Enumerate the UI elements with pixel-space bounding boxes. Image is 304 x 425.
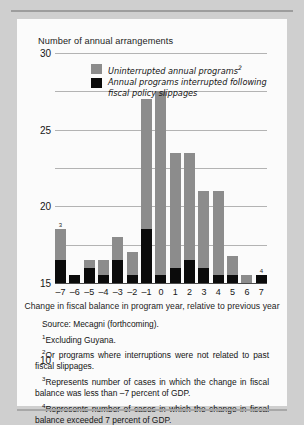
x-tick-label-0: 0: [155, 287, 166, 297]
x-tick-label-2: 2: [184, 287, 195, 297]
figure-page: Number of annual arrangements 0510152025…: [0, 0, 304, 425]
x-tick-label-3: 3: [198, 287, 209, 297]
bar-segment-interrupted--7: [55, 260, 66, 283]
bar-segment-interrupted--4: [98, 275, 109, 283]
y-tick-label-25: 25: [40, 124, 51, 135]
source-line: Source: Mecagni (forthcoming).: [35, 319, 269, 331]
cut-off-header: [14, 0, 290, 7]
bar-segment-interrupted-7: [256, 275, 267, 283]
x-tick-label--7: –7: [55, 287, 66, 297]
y-axis-caption: Number of annual arrangements: [38, 36, 173, 46]
bar-segment-interrupted--5: [84, 268, 95, 283]
x-tick-label-4: 4: [213, 287, 224, 297]
bar-segment-uninterrupted--1: [141, 99, 152, 229]
x-tick-label--4: –4: [98, 287, 109, 297]
bar-segment-uninterrupted--2: [127, 252, 138, 275]
legend-swatch-black-icon: [91, 78, 102, 88]
chart-legend: Uninterrupted annual programs2 Annual pr…: [91, 63, 267, 99]
x-tick-label--1: –1: [141, 287, 152, 297]
bar-segment-interrupted--1: [141, 229, 152, 283]
x-tick-label--2: –2: [127, 287, 138, 297]
x-tick-label-7: 7: [256, 287, 267, 297]
x-tick-label-1: 1: [170, 287, 181, 297]
legend-label-uninterrupted: Uninterrupted annual programs2: [108, 63, 242, 76]
bottom-divider: [17, 409, 287, 411]
bar-segment-interrupted--6: [69, 275, 80, 283]
footnote-4: 4Represents number of cases in which the…: [35, 400, 269, 425]
bar-segment-uninterrupted-4: [213, 191, 224, 275]
footnote-3: 3Represents number of cases in which the…: [35, 373, 269, 400]
footnote-1: 1Excluding Guyana.: [35, 331, 269, 346]
bar-segment-interrupted--2: [127, 275, 138, 283]
bar-segment-interrupted-1: [170, 268, 181, 283]
gridline-0: 0: [55, 283, 267, 284]
bar--7[interactable]: 3: [55, 53, 66, 283]
bar-segment-uninterrupted-3: [198, 191, 209, 268]
bar-segment-interrupted-0: [155, 275, 166, 283]
bar-annotation-7: 4: [260, 268, 263, 274]
chart-area: Number of annual arrangements 0510152025…: [17, 19, 287, 291]
chart-card: Number of annual arrangements 0510152025…: [17, 19, 287, 406]
bar--6[interactable]: [69, 53, 80, 283]
bar-segment-uninterrupted-2: [184, 153, 195, 260]
x-tick-label--6: –6: [69, 287, 80, 297]
bar-segment-interrupted-4: [213, 275, 224, 283]
y-tick-label-30: 30: [40, 48, 51, 59]
bar-segment-interrupted-3: [198, 268, 209, 283]
top-divider: [11, 10, 293, 12]
x-tick-label--3: –3: [112, 287, 123, 297]
x-tick-label--5: –5: [84, 287, 95, 297]
bar-segment-uninterrupted-1: [170, 153, 181, 268]
y-tick-label-20: 20: [40, 201, 51, 212]
bar-segment-uninterrupted-5: [227, 256, 238, 275]
legend-item-uninterrupted: Uninterrupted annual programs2: [91, 63, 267, 76]
y-tick-label-15: 15: [40, 278, 51, 289]
bar-segment-uninterrupted--4: [98, 260, 109, 275]
footnote-2: 2Or programs where interruptions were no…: [35, 346, 269, 373]
bar-segment-uninterrupted-0: [155, 91, 166, 275]
legend-item-interrupted: Annual programs interrupted following fi…: [91, 77, 267, 98]
x-tick-label-5: 5: [227, 287, 238, 297]
bar-annotation--7: 3: [59, 222, 62, 228]
x-tick-label-6: 6: [241, 287, 252, 297]
bar-segment-uninterrupted--5: [84, 260, 95, 268]
bar-segment-interrupted-5: [227, 275, 238, 283]
bar-segment-interrupted-2: [184, 260, 195, 283]
bar-segment-uninterrupted-6: [241, 275, 252, 283]
bar-segment-interrupted--3: [112, 260, 123, 283]
bar-segment-uninterrupted--7: [55, 229, 66, 260]
x-axis-title: Change in fiscal balance in program year…: [17, 301, 287, 311]
legend-swatch-gray-icon: [91, 64, 102, 74]
legend-label-interrupted: Annual programs interrupted following fi…: [108, 77, 267, 98]
bar-segment-uninterrupted--3: [112, 237, 123, 260]
x-axis-ticks: –7–6–5–4–3–2–101234567: [55, 287, 267, 297]
